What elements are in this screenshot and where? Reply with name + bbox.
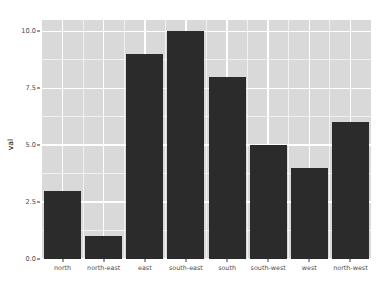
x-axis-tick-label: south-east [169,264,203,272]
y-axis-tick-label: 5.0 [26,141,37,149]
bar[interactable] [332,122,369,259]
plot-panel [42,20,371,259]
gridline-minor-vertical [83,20,84,259]
y-axis-tick-label: 10.0 [21,27,36,35]
y-axis-tick-mark [37,31,40,32]
bar[interactable] [250,145,287,259]
gridline-major-vertical [103,20,104,259]
x-axis-tick-label: west [302,264,317,272]
x-axis-tick-labels: northnorth-easteastsouth-eastsouthsouth-… [42,259,371,279]
gridline-minor-vertical [206,20,207,259]
x-axis-tick-label: north-west [333,264,367,272]
gridline-minor-vertical [124,20,125,259]
x-axis-tick-label: north-east [87,264,120,272]
bar[interactable] [209,77,246,259]
x-axis-tick-mark [268,259,269,262]
x-axis-tick-label: south-west [251,264,286,272]
y-axis-tick-labels: 0.02.55.07.510.0 [20,20,40,259]
x-axis-tick-mark [144,259,145,262]
gridline-minor-vertical [165,20,166,259]
bar[interactable] [44,191,81,259]
bar[interactable] [291,168,328,259]
y-axis-title: val [0,0,22,288]
x-axis-tick-mark [62,259,63,262]
x-axis-tick-mark [185,259,186,262]
bar[interactable] [126,54,163,259]
x-axis-tick-mark [103,259,104,262]
y-axis-tick-mark [37,259,40,260]
x-axis-tick-label: south [218,264,236,272]
y-axis-tick-mark [37,202,40,203]
y-axis-tick-label: 2.5 [26,198,37,206]
y-axis-tick-mark [37,145,40,146]
gridline-minor-vertical [288,20,289,259]
y-axis-tick-label: 7.5 [26,84,37,92]
x-axis-tick-label: east [138,264,152,272]
y-axis-tick-label: 0.0 [26,255,37,263]
x-axis-tick-mark [227,259,228,262]
bar[interactable] [85,236,122,259]
x-axis-tick-mark [350,259,351,262]
y-axis-tick-mark [37,88,40,89]
gridline-minor-vertical [329,20,330,259]
x-axis-tick-mark [309,259,310,262]
bar-chart-figure: val 0.02.55.07.510.0 northnorth-easteast… [0,0,385,288]
bar[interactable] [167,31,204,259]
x-axis-tick-label: north [54,264,71,272]
gridline-minor-vertical [247,20,248,259]
y-axis-title-label: val [6,138,15,149]
